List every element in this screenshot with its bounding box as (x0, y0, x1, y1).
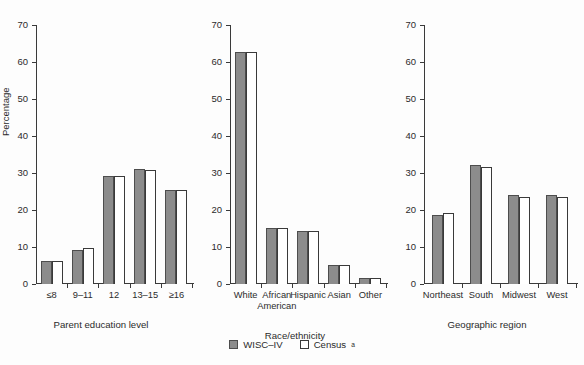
y-tick-10 (226, 247, 230, 248)
bar-WISCIV-0[interactable] (235, 52, 246, 284)
y-tick-label-20: 20 (204, 205, 222, 215)
legend-item-census[interactable]: Censusa (300, 339, 355, 350)
bar-WISCIV-4[interactable] (359, 278, 370, 284)
y-tick-label-10: 10 (204, 242, 222, 252)
x-tick-4 (386, 284, 387, 288)
y-tick-70 (420, 25, 424, 26)
bar-WISCIV-0[interactable] (41, 261, 52, 284)
bar-WISCIV-2[interactable] (508, 195, 519, 284)
panel-parent-education: Percentage 010203040506070 ≤89–111213–15… (6, 18, 196, 318)
y-tick-label-0: 0 (204, 279, 222, 289)
bar-Census-3[interactable] (145, 170, 156, 284)
bar-group (164, 190, 188, 284)
x-tick-3 (161, 284, 162, 288)
y-tick-label-40: 40 (398, 131, 416, 141)
x-tick-2 (130, 284, 131, 288)
y-tick-label-10: 10 (398, 242, 416, 252)
bar-Census-4[interactable] (370, 278, 381, 284)
x-tick-0 (67, 284, 68, 288)
y-tick-label-30: 30 (204, 168, 222, 178)
bar-group (40, 261, 64, 284)
bar-WISCIV-1[interactable] (266, 228, 277, 284)
y-tick-70 (226, 25, 230, 26)
legend-label-wisc: WISC–IV (243, 339, 282, 350)
bar-Census-2[interactable] (519, 197, 530, 284)
bar-Census-1[interactable] (481, 167, 492, 284)
bar-group (296, 231, 320, 284)
y-axis-line (424, 25, 425, 284)
bar-WISCIV-3[interactable] (546, 195, 557, 284)
y-tick-label-60: 60 (204, 57, 222, 67)
bar-group (507, 195, 531, 284)
figure-root: Percentage 010203040506070 ≤89–111213–15… (0, 0, 584, 365)
bar-group (545, 195, 569, 284)
bar-Census-2[interactable] (114, 176, 125, 284)
y-axis-line (230, 25, 231, 284)
bar-WISCIV-4[interactable] (165, 190, 176, 284)
y-tick-60 (420, 62, 424, 63)
x-tick-2 (538, 284, 539, 288)
bar-Census-3[interactable] (339, 265, 350, 284)
x-category-label: Other (351, 290, 390, 301)
panel-race-ethnicity: 010203040506070 WhiteAfrican AmericanHis… (200, 18, 390, 318)
y-axis-line (36, 25, 37, 284)
bar-WISCIV-3[interactable] (328, 265, 339, 284)
bar-Census-1[interactable] (277, 228, 288, 284)
y-tick-label-0: 0 (398, 279, 416, 289)
bar-WISCIV-2[interactable] (297, 231, 308, 284)
y-tick-30 (420, 173, 424, 174)
bar-Census-3[interactable] (557, 197, 568, 284)
y-tick-label-70: 70 (204, 20, 222, 30)
plot-area-race-ethnicity: 010203040506070 (200, 18, 390, 284)
x-category-label: ≥16 (157, 290, 196, 301)
x-tick-2 (324, 284, 325, 288)
bar-WISCIV-1[interactable] (72, 250, 83, 284)
y-tick-label-40: 40 (204, 131, 222, 141)
x-tick-1 (500, 284, 501, 288)
y-tick-label-30: 30 (398, 168, 416, 178)
bar-Census-4[interactable] (176, 190, 187, 284)
y-tick-50 (420, 99, 424, 100)
bar-Census-2[interactable] (308, 231, 319, 284)
x-tick-1 (98, 284, 99, 288)
y-tick-label-60: 60 (398, 57, 416, 67)
bar-WISCIV-0[interactable] (432, 215, 443, 284)
x-tick-3 (355, 284, 356, 288)
bar-Census-0[interactable] (246, 52, 257, 284)
bar-Census-0[interactable] (443, 213, 454, 284)
bar-group (265, 228, 289, 284)
legend-label-census-superscript: a (351, 341, 355, 348)
x-tick-4 (192, 284, 193, 288)
bar-Census-0[interactable] (52, 261, 63, 284)
bar-WISCIV-2[interactable] (103, 176, 114, 284)
bar-group (358, 278, 382, 284)
bar-WISCIV-3[interactable] (134, 169, 145, 284)
y-tick-30 (32, 173, 36, 174)
panel-geographic-region: 010203040506070 NortheastSouthMidwestWes… (394, 18, 580, 318)
y-tick-10 (420, 247, 424, 248)
legend-item-wisc[interactable]: WISC–IV (229, 339, 282, 350)
bar-group (71, 248, 95, 284)
bar-group (133, 169, 157, 284)
y-tick-60 (226, 62, 230, 63)
plot-area-geographic-region: 010203040506070 (394, 18, 580, 284)
x-tick-3 (576, 284, 577, 288)
x-axis-title-parent-education: Parent education level (6, 319, 196, 330)
y-tick-30 (226, 173, 230, 174)
bar-Census-1[interactable] (83, 248, 94, 284)
y-tick-label-70: 70 (398, 20, 416, 30)
y-tick-70 (32, 25, 36, 26)
bar-WISCIV-1[interactable] (470, 165, 481, 284)
legend-label-census: Census (314, 339, 347, 350)
bar-group (102, 176, 126, 284)
y-tick-0 (32, 284, 36, 285)
y-tick-50 (226, 99, 230, 100)
y-tick-20 (32, 210, 36, 211)
y-tick-label-50: 50 (398, 94, 416, 104)
y-tick-label-60: 60 (10, 57, 28, 67)
y-tick-40 (420, 136, 424, 137)
y-tick-40 (32, 136, 36, 137)
y-tick-label-30: 30 (10, 168, 28, 178)
y-tick-label-40: 40 (10, 131, 28, 141)
x-tick-0 (261, 284, 262, 288)
